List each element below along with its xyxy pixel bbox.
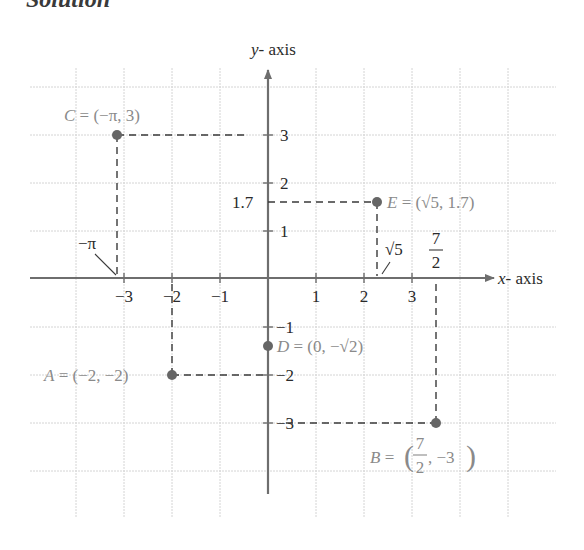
point-b-marker (431, 418, 441, 428)
x-tick-label: −3 (115, 287, 133, 306)
sqrt5-leader (382, 262, 390, 274)
y-tick-label: −1 (276, 318, 294, 337)
y-tick-labels: 3 2 1 −1 −2 −3 (276, 126, 294, 433)
point-c-marker (112, 130, 122, 140)
svg-text:B =: B = (370, 448, 394, 467)
x-tick-label: 3 (408, 287, 417, 306)
y-axis-label: y- axis (249, 40, 296, 59)
x-tick-label: −1 (211, 287, 229, 306)
svg-text:): ) (466, 439, 476, 473)
point-a-marker (167, 370, 177, 380)
y-tick-label: 3 (280, 126, 289, 145)
y-tick-label: 1 (280, 222, 289, 241)
point-c-label: C = (−π, 3) (64, 106, 140, 125)
grid (30, 68, 556, 518)
point-d-marker (263, 341, 273, 351)
x-axis-label: x- axis (497, 269, 543, 288)
svg-text:, −3: , −3 (428, 448, 455, 467)
svg-text:2: 2 (416, 458, 425, 477)
coordinate-plane: −3 −2 −1 1 2 3 3 2 1 −1 −2 −3 x- axis y-… (0, 0, 584, 550)
point-a-label: A = (−2, −2) (43, 366, 128, 385)
svg-text:7: 7 (416, 434, 425, 453)
svg-text:(: ( (404, 439, 414, 473)
y-tick-label: 2 (280, 174, 289, 193)
point-d-label: D = (0, −√2) (276, 337, 363, 356)
point-e-label: E = (√5, 1.7) (386, 193, 474, 212)
point-e-marker (372, 197, 382, 207)
x-tick-label: 2 (360, 287, 369, 306)
seven-halves-num: 7 (432, 229, 441, 248)
neg-pi-leader (95, 254, 116, 275)
y-tick-label: −2 (276, 366, 294, 385)
y-1-7-annotation: 1.7 (232, 193, 254, 212)
seven-halves-den: 2 (432, 253, 441, 272)
neg-pi-annotation: −π (78, 234, 97, 253)
x-tick-labels: −3 −2 −1 1 2 3 (115, 287, 416, 306)
sqrt5-annotation: √5 (385, 240, 403, 259)
x-tick-label: 1 (312, 287, 321, 306)
